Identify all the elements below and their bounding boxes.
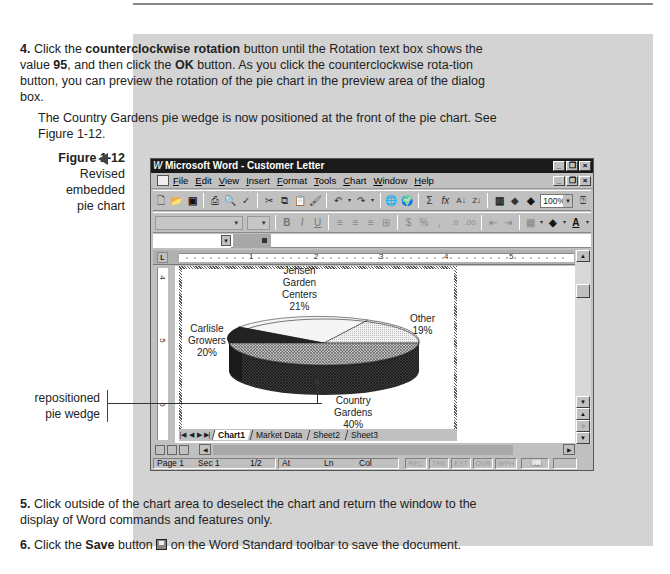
horizontal-ruler[interactable]: L 1 2 3 4 5 — [153, 250, 591, 265]
menu-help[interactable]: Help — [414, 175, 434, 186]
document-page[interactable]: Jensen Garden Centers 21% Other 19% Coun… — [175, 266, 575, 443]
scroll-thumb[interactable] — [576, 284, 590, 298]
tab-sheet3[interactable]: Sheet3 — [345, 430, 384, 440]
zoom-select[interactable]: 100% ▼ — [540, 194, 573, 208]
font-color-icon[interactable]: A — [569, 215, 582, 230]
scroll-up-icon[interactable]: ▲ — [576, 250, 590, 262]
name-box[interactable]: ▼ — [153, 234, 231, 248]
menu-insert[interactable]: Insert — [246, 175, 270, 186]
fill-color-icon[interactable]: ◈ — [546, 215, 559, 230]
autosum-icon[interactable]: Σ — [423, 193, 437, 208]
print-preview-icon[interactable]: 🔍 — [224, 193, 238, 208]
menu-edit[interactable]: Edit — [195, 175, 211, 186]
paste-icon[interactable]: 📋 — [293, 193, 307, 208]
doc-close-button[interactable]: × — [579, 176, 591, 186]
menu-tools[interactable]: Tools — [314, 175, 336, 186]
minimize-button[interactable]: _ — [553, 161, 565, 171]
vertical-ruler[interactable]: 4 5 6 — [153, 266, 173, 442]
scroll-right-icon[interactable]: ▶ — [563, 444, 575, 455]
next-sheet-icon[interactable]: ▶ — [195, 430, 203, 440]
format-painter-icon[interactable]: 🖌 — [309, 193, 323, 208]
next-page-icon[interactable]: ▼ — [576, 432, 590, 444]
new-icon[interactable]: 🗋 — [154, 193, 168, 208]
comma-icon[interactable]: , — [433, 215, 446, 230]
web-toolbar-icon[interactable]: 🌍 — [400, 193, 414, 208]
tab-chart1[interactable]: Chart1 — [212, 430, 251, 440]
web-layout-view-icon[interactable] — [167, 445, 177, 455]
print-layout-view-icon[interactable] — [179, 445, 189, 455]
embedded-chart[interactable]: Jensen Garden Centers 21% Other 19% Coun… — [179, 266, 457, 434]
underline-icon[interactable]: U — [311, 215, 324, 230]
status-ext[interactable]: EXT — [451, 458, 471, 469]
cut-icon[interactable]: ✂ — [262, 193, 276, 208]
font-select[interactable]: ▼ — [155, 216, 243, 230]
menu-chart[interactable]: Chart — [343, 175, 366, 186]
prev-page-icon[interactable]: ▲ — [576, 408, 590, 420]
chevron-down-icon[interactable]: ▼ — [563, 195, 572, 207]
borders-icon[interactable]: ▦ — [524, 215, 537, 230]
doc-restore-button[interactable]: ❐ — [566, 176, 578, 186]
scroll-track[interactable] — [213, 445, 513, 455]
restore-button[interactable]: ❐ — [566, 161, 578, 171]
normal-view-icon[interactable] — [155, 445, 165, 455]
spelling-icon[interactable]: ✓ — [239, 193, 253, 208]
function-icon[interactable]: fx — [439, 193, 453, 208]
chevron-down-icon[interactable]: ▼ — [259, 218, 268, 228]
undo-dropdown-icon[interactable]: ▾ — [347, 193, 352, 208]
status-wph[interactable]: WPH — [495, 458, 517, 469]
increase-indent-icon[interactable]: ⇥ — [501, 215, 514, 230]
chart-wizard-icon[interactable]: ▥ — [492, 193, 506, 208]
hyperlink-icon[interactable]: 🌐 — [385, 193, 399, 208]
status-ovr[interactable]: OVR — [473, 458, 493, 469]
chevron-down-icon[interactable]: ▾ — [562, 215, 567, 230]
menu-file[interactable]: File — [173, 175, 188, 186]
currency-icon[interactable]: $ — [402, 215, 415, 230]
chevron-down-icon[interactable]: ▾ — [585, 215, 590, 230]
sort-ascending-icon[interactable]: A↓ — [454, 193, 468, 208]
redo-icon[interactable]: ↷ — [355, 193, 369, 208]
decrease-decimal-icon[interactable]: .00 — [463, 215, 476, 230]
chevron-down-icon[interactable]: ▼ — [221, 235, 231, 246]
equals-icon[interactable] — [262, 238, 267, 243]
tab-sheet2[interactable]: Sheet2 — [307, 430, 346, 440]
undo-icon[interactable]: ↶ — [331, 193, 345, 208]
vertical-scrollbar[interactable]: ▲ ▼ ▲ ○ ▼ — [575, 250, 591, 445]
status-trk[interactable]: TRK — [429, 458, 449, 469]
menu-format[interactable]: Format — [277, 175, 307, 186]
save-icon[interactable]: ▣ — [185, 193, 199, 208]
bold-icon[interactable]: B — [280, 215, 293, 230]
last-sheet-icon[interactable]: ▶| — [203, 430, 211, 440]
print-icon[interactable]: ⎙ — [208, 193, 222, 208]
drawing-icon[interactable]: ◈ — [524, 193, 538, 208]
spelling-status-icon[interactable]: 📖 — [521, 458, 549, 469]
chevron-down-icon[interactable]: ▼ — [232, 218, 241, 228]
map-icon[interactable]: ◆ — [508, 193, 522, 208]
sort-descending-icon[interactable]: Z↓ — [470, 193, 484, 208]
tab-market-data[interactable]: Market Data — [250, 430, 308, 440]
document-icon[interactable] — [157, 175, 169, 186]
align-left-icon[interactable]: ≡ — [333, 215, 346, 230]
copy-icon[interactable]: ⧉ — [277, 193, 291, 208]
scroll-left-icon[interactable]: ◀ — [199, 444, 211, 455]
status-rec[interactable]: REC — [405, 458, 427, 469]
decrease-indent-icon[interactable]: ⇤ — [486, 215, 499, 230]
align-right-icon[interactable]: ≡ — [364, 215, 377, 230]
close-button[interactable]: × — [579, 161, 591, 171]
scroll-down-icon[interactable]: ▼ — [576, 396, 590, 408]
menu-window[interactable]: Window — [373, 175, 407, 186]
first-sheet-icon[interactable]: |◀ — [179, 430, 187, 440]
redo-dropdown-icon[interactable]: ▾ — [370, 193, 375, 208]
align-center-icon[interactable]: ≡ — [349, 215, 362, 230]
font-size-select[interactable]: ▼ — [247, 216, 270, 230]
increase-decimal-icon[interactable]: .0 — [448, 215, 461, 230]
doc-minimize-button[interactable]: _ — [553, 176, 565, 186]
merge-center-icon[interactable]: ⊞ — [380, 215, 393, 230]
open-icon[interactable]: 📂 — [170, 193, 184, 208]
chevron-down-icon[interactable]: ▾ — [539, 215, 544, 230]
italic-icon[interactable]: I — [296, 215, 309, 230]
office-assistant-icon[interactable]: ⍰ — [576, 193, 590, 208]
menu-view[interactable]: View — [219, 175, 239, 186]
select-browse-object-icon[interactable]: ○ — [576, 420, 590, 432]
prev-sheet-icon[interactable]: ◀ — [187, 430, 195, 440]
tab-selector[interactable]: L — [157, 252, 168, 263]
